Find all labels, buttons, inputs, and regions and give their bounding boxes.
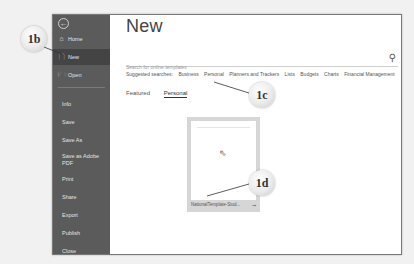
callout-1b: 1b	[21, 26, 47, 52]
callout-1c: 1c	[249, 82, 275, 108]
callout-1d: 1d	[249, 170, 275, 196]
callout-leader-lines	[0, 0, 414, 264]
